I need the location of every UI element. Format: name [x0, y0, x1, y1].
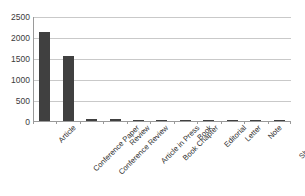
bar-slot [33, 17, 56, 121]
y-axis-tick-labels: 05001000150020002500 [0, 17, 30, 122]
bar-slot [150, 17, 173, 121]
x-axis-category-labels: ArticleConference PaperConference Review… [33, 124, 291, 196]
bar-series [33, 17, 291, 121]
y-axis-tick-label: 500 [0, 97, 30, 106]
bar-slot [174, 17, 197, 121]
y-axis-tick-label: 0 [0, 118, 30, 127]
y-axis-tick-label: 1000 [0, 76, 30, 85]
bar-slot [244, 17, 267, 121]
x-axis-category-label: Note [267, 124, 284, 141]
x-axis-category-label: Letter [244, 124, 263, 143]
bar-chart: 05001000150020002500 ArticleConference P… [0, 0, 305, 196]
bar-slot [221, 17, 244, 121]
x-axis-category-label: Short Survey [298, 124, 305, 160]
y-axis-tick-label: 1500 [0, 55, 30, 64]
bar-slot [197, 17, 220, 121]
bar-slot [103, 17, 126, 121]
bar-slot [56, 17, 79, 121]
x-axis-category-label: Article [57, 124, 77, 144]
y-axis-tick-label: 2000 [0, 34, 30, 43]
bar[interactable] [63, 56, 74, 121]
bar-slot [268, 17, 291, 121]
plot-area [33, 17, 291, 122]
y-axis-tick-label: 2500 [0, 13, 30, 22]
bar-slot [127, 17, 150, 121]
bar-slot [80, 17, 103, 121]
bar[interactable] [39, 32, 50, 121]
